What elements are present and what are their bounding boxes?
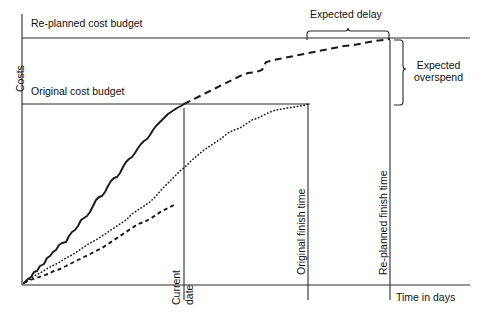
replanned-cost-budget-label: Re-planned cost budget [31,17,143,29]
x-axis-label: Time in days [396,291,455,303]
milestone-lines [184,40,390,300]
series-earned-value [24,104,308,283]
chart-canvas [0,0,489,336]
expected-overspend-label: Expected overspend [414,59,463,83]
replanned-finish-time-text: Re-planned finish time [377,171,389,275]
expected-delay-label: Expected delay [310,8,382,20]
expected-overspend-line-2: overspend [414,71,463,83]
cost-time-chart: Costs Time in days Re-planned cost budge… [0,0,489,336]
expected-overspend-brace [394,40,406,105]
expected-overspend-line-1: Expected [414,59,463,71]
series-forecast-cost [184,39,390,104]
current-date-line-1: Current [170,270,182,305]
original-finish-time-text: Original finish time [295,189,307,275]
series-planned-baseline [24,205,174,283]
y-axis-label-text: Costs [14,65,26,92]
series-actual-cost [24,104,184,283]
current-date-line-2: date [183,285,195,305]
original-cost-budget-label: Original cost budget [31,85,124,97]
